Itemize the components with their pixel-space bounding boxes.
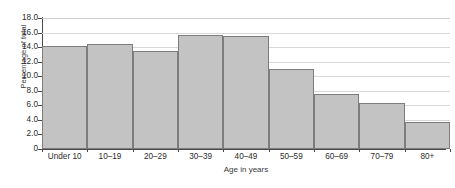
bar — [314, 94, 359, 149]
y-axis-tick-mark — [38, 47, 42, 48]
x-axis-title: Age in years — [42, 165, 450, 174]
plot-area — [42, 18, 450, 149]
y-axis-tick-mark — [38, 91, 42, 92]
y-axis-tick-label: 14.0 — [8, 43, 38, 51]
y-axis-tick-label: 6.0 — [8, 101, 38, 109]
bar — [269, 69, 314, 149]
x-axis-tick-label: 10–19 — [99, 152, 122, 162]
y-axis-tick-mark — [38, 76, 42, 77]
y-axis-tick-label: 16.0 — [8, 28, 38, 36]
x-axis-tick-label: 50–59 — [280, 152, 303, 162]
y-axis-tick-label: 10.0 — [8, 72, 38, 80]
x-axis-tick-label-group: Under 1010–1920–2930–3940–4950–5960–6970… — [42, 152, 450, 165]
x-axis-tick-mark — [133, 149, 134, 152]
bar — [133, 51, 178, 149]
x-axis-tick-label: 60–69 — [325, 152, 348, 162]
y-axis-tick-mark — [38, 134, 42, 135]
x-axis-tick-mark — [269, 149, 270, 152]
y-axis-tick-mark — [38, 62, 42, 63]
bar — [223, 36, 268, 149]
y-axis-tick-label: 2.0 — [8, 130, 38, 138]
x-axis-tick-mark — [359, 149, 360, 152]
bar — [42, 46, 87, 149]
x-axis-line — [42, 149, 446, 150]
y-axis-tick-label: 12.0 — [8, 58, 38, 66]
x-axis-tick-label: 40–49 — [235, 152, 258, 162]
x-axis-tick-mark — [405, 149, 406, 152]
x-axis-tick-mark — [223, 149, 224, 152]
y-axis-tick-mark — [38, 105, 42, 106]
bar-chart-figure: Percentage of total 02.04.06.08.010.012.… — [0, 0, 455, 188]
bar — [178, 35, 223, 149]
bar — [87, 44, 132, 149]
y-axis-tick-label: 18.0 — [8, 14, 38, 22]
x-axis-tick-mark — [450, 149, 451, 152]
y-axis-tick-label-group: 02.04.06.08.010.012.014.016.018.0 — [8, 18, 38, 149]
bar — [405, 122, 450, 149]
x-axis-tick-label: Under 10 — [48, 152, 82, 162]
y-axis-tick-mark — [38, 120, 42, 121]
y-axis-tick-label: 8.0 — [8, 87, 38, 95]
x-axis-tick-mark — [314, 149, 315, 152]
x-axis-tick-mark — [178, 149, 179, 152]
x-axis-tick-label: 30–39 — [189, 152, 212, 162]
x-axis-tick-label: 20–29 — [144, 152, 167, 162]
x-axis-tick-label: 70–79 — [371, 152, 394, 162]
x-axis-tick-mark — [87, 149, 88, 152]
x-axis-tick-mark — [42, 149, 43, 152]
bar — [359, 103, 404, 149]
y-axis-tick-label: 0 — [8, 145, 38, 153]
y-axis-tick-mark — [38, 18, 42, 19]
y-axis-tick-mark — [38, 33, 42, 34]
bars-group — [42, 18, 450, 149]
y-axis-tick-label: 4.0 — [8, 116, 38, 124]
x-axis-tick-label: 80+ — [420, 152, 434, 162]
